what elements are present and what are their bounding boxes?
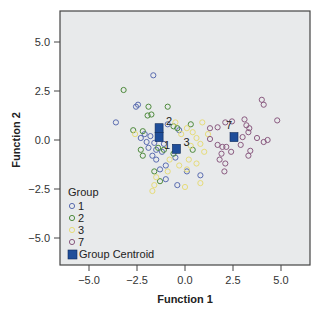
legend-title: Group <box>68 186 99 198</box>
centroid-marker-group-2 <box>155 124 163 133</box>
y-tick-label: 2.5 <box>35 85 50 97</box>
y-axis: −5.0−2.50.02.55.0 <box>28 36 60 244</box>
y-tick-label: −5.0 <box>28 232 50 244</box>
y-tick-label: 5.0 <box>35 36 50 48</box>
centroid-label: 1 <box>164 139 170 151</box>
x-axis: −5.0−2.50.02.55.0 <box>78 265 289 286</box>
centroid-marker-group-3 <box>172 144 180 153</box>
filled-square-icon <box>68 250 77 259</box>
y-axis-title: Function 2 <box>10 112 22 168</box>
x-axis-title: Function 1 <box>157 293 213 305</box>
centroid-marker-group-7 <box>230 133 238 142</box>
x-tick-label: 5.0 <box>273 274 288 286</box>
legend-label: 3 <box>78 224 84 236</box>
x-tick-label: 0.0 <box>177 274 192 286</box>
legend-item-centroid: Group Centroid <box>68 248 154 260</box>
x-tick-label: −2.5 <box>126 274 148 286</box>
centroid-label: 3 <box>183 136 189 148</box>
legend-label: 2 <box>78 212 84 224</box>
centroid-marker-group-1 <box>155 133 163 142</box>
y-tick-label: 0.0 <box>35 134 50 146</box>
x-tick-label: 2.5 <box>225 274 240 286</box>
centroid-label: 2 <box>166 115 172 127</box>
y-tick-label: −2.5 <box>28 183 50 195</box>
legend-label: 7 <box>78 236 84 248</box>
x-tick-label: −5.0 <box>78 274 100 286</box>
scatter-chart: −5.0−2.50.02.55.0 −5.0−2.50.02.55.0 1237… <box>0 0 321 314</box>
centroid-label: 7 <box>226 119 232 131</box>
legend-label: Group Centroid <box>79 248 154 260</box>
legend-label: 1 <box>78 200 84 212</box>
